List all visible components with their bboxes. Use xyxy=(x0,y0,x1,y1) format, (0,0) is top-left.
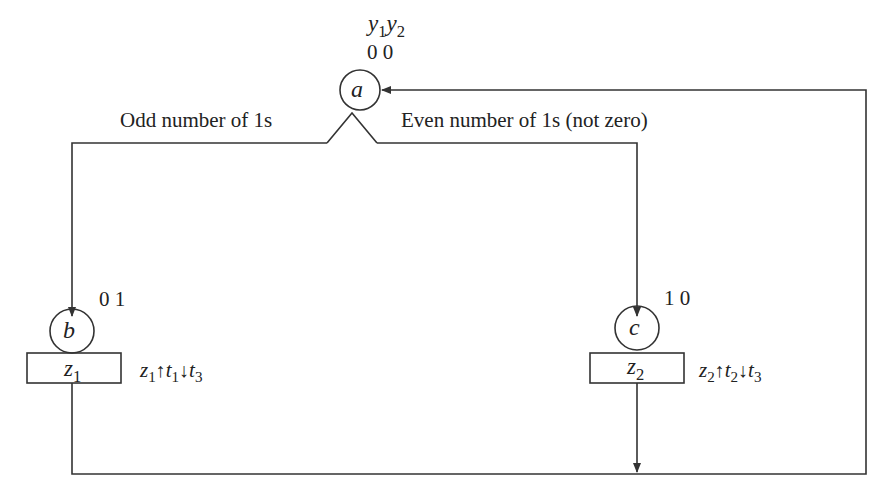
state-a-code: 0 0 xyxy=(367,42,393,63)
action-b-t1-sub: 1 xyxy=(172,369,180,385)
action-c: z2↑t2↓t3 xyxy=(699,360,762,385)
var-y2: y xyxy=(387,11,397,36)
action-c-t3-sub: 3 xyxy=(754,369,762,385)
action-b-z: z xyxy=(140,358,148,382)
branch-odd-label: Odd number of 1s xyxy=(120,110,272,131)
output-z2-name: z xyxy=(627,354,636,379)
state-c-code: 1 0 xyxy=(664,288,690,309)
output-z2-sub: 2 xyxy=(636,365,644,384)
action-c-z: z xyxy=(699,358,707,382)
branch-even-label: Even number of 1s (not zero) xyxy=(401,110,648,131)
action-b-z-sub: 1 xyxy=(148,369,156,385)
action-b: z1↑t1↓t3 xyxy=(140,360,203,385)
down-arrow-icon: ↓ xyxy=(179,359,189,381)
asm-chart-lines xyxy=(0,0,892,503)
output-z1-sub: 1 xyxy=(73,367,81,386)
down-arrow-icon: ↓ xyxy=(738,359,748,381)
action-b-t3-sub: 3 xyxy=(195,369,203,385)
state-a-label: a xyxy=(351,77,363,101)
up-arrow-icon: ↑ xyxy=(715,359,725,381)
output-z1: z1 xyxy=(64,357,81,385)
var-y1: y xyxy=(368,11,378,36)
state-c-label: c xyxy=(629,315,640,339)
state-variables-header: y1y2 xyxy=(368,12,405,40)
var-y1-sub: 1 xyxy=(378,22,386,41)
var-y2-sub: 2 xyxy=(397,22,405,41)
output-z2: z2 xyxy=(627,355,644,383)
action-c-t2-sub: 2 xyxy=(731,369,739,385)
state-b-code: 0 1 xyxy=(99,289,125,310)
up-arrow-icon: ↑ xyxy=(156,359,166,381)
action-c-z-sub: 2 xyxy=(707,369,715,385)
state-b-label: b xyxy=(63,318,75,342)
output-z1-name: z xyxy=(64,356,73,381)
